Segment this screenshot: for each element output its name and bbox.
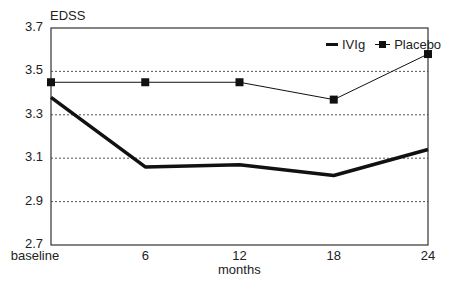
y-tick-label: 3.7 [3,19,43,34]
placebo-line [51,54,428,100]
placebo-marker [330,96,338,104]
ivig-legend-swatch [326,43,338,46]
x-tick-label: 12 [210,248,270,263]
gridlines [51,71,428,201]
legend: IVIg Placebo [326,37,441,52]
y-axis-label: EDSS [50,8,85,23]
placebo-marker [236,78,244,86]
y-tick-label: 3.1 [3,149,43,164]
x-tick-label: 24 [398,248,455,263]
x-tick-label: 18 [304,248,364,263]
placebo-marker [141,78,149,86]
x-tick-label: baseline [5,248,65,263]
plot-frame [51,28,428,245]
axes [51,28,428,245]
series-lines [47,50,432,176]
ivig-line [51,97,428,175]
y-tick-label: 3.3 [3,106,43,121]
y-tick-label: 3.5 [3,62,43,77]
x-tick-label: 6 [115,248,175,263]
placebo-legend-swatch [379,41,386,48]
x-axis-label: months [218,262,261,277]
y-tick-label: 2.9 [3,193,43,208]
legend-ivig-label: IVIg [342,37,365,52]
placebo-marker [47,78,55,86]
legend-placebo-label: Placebo [394,37,441,52]
